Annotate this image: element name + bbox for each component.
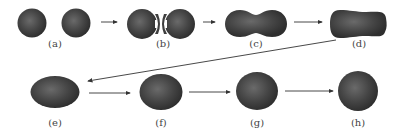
stage-e-drop: [31, 76, 80, 108]
label-h: (h): [351, 117, 365, 128]
label-f: (f): [155, 117, 167, 128]
stage-b-drops: [127, 9, 195, 39]
stage-f-drop: [140, 74, 183, 110]
label-e: (e): [48, 117, 62, 128]
label-c: (c): [249, 38, 262, 49]
stage-h-drop: [338, 71, 378, 111]
label-g: (g): [250, 117, 264, 128]
stage-a-drops: [18, 9, 91, 38]
label-b: (b): [156, 38, 170, 49]
label-a: (a): [48, 38, 62, 49]
label-d: (d): [352, 38, 366, 49]
stage-d-drop: [330, 10, 387, 38]
arrow-d-e: [88, 40, 336, 81]
stage-c-drop: [225, 10, 287, 37]
stage-g-drop: [236, 72, 278, 110]
